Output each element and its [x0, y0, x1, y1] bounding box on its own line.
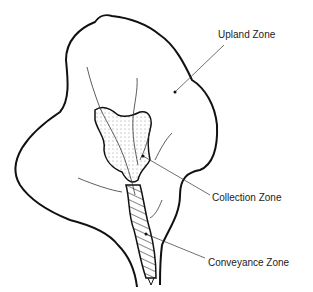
outlet-arrow-icon: [148, 278, 154, 285]
label-collection-zone: Collection Zone: [212, 192, 282, 203]
label-conveyance-zone: Conveyance Zone: [208, 257, 290, 268]
collection-zone-area: [95, 108, 151, 182]
leader-lines: [143, 45, 224, 258]
label-upland-zone: Upland Zone: [218, 29, 276, 40]
watershed-diagram: Upland Zone Collection Zone Conveyance Z…: [0, 0, 313, 292]
